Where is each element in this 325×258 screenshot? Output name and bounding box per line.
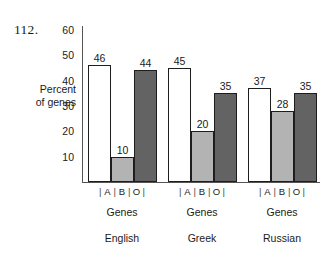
x-axis-caption-rows: Genes Genes Genes English Greek Russian (82, 0, 325, 258)
figure-container: 112. Percent of genes 60 50 40 30 20 10 … (0, 0, 325, 258)
figure-number: 112. (14, 22, 38, 38)
x-caption-language-russian: Russian (242, 232, 322, 244)
y-tick-30: 30 (44, 101, 74, 112)
x-caption-language-english: English (82, 232, 162, 244)
y-tick-60: 60 (44, 25, 74, 36)
y-tick-10: 10 (44, 152, 74, 163)
y-tick-20: 20 (44, 126, 74, 137)
x-caption-genes-greek: Genes (162, 206, 242, 218)
y-tick-50: 50 (44, 50, 74, 61)
x-caption-language-greek: Greek (162, 232, 242, 244)
x-caption-genes-english: Genes (82, 206, 162, 218)
y-tick-40: 40 (44, 75, 74, 86)
x-caption-genes-russian: Genes (242, 206, 322, 218)
